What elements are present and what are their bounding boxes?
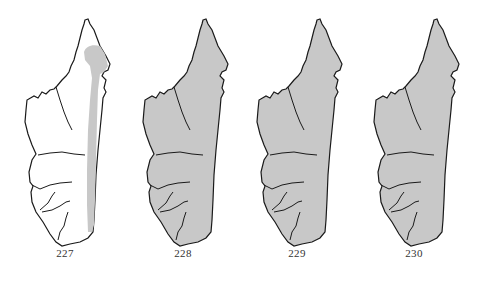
madagascar-map-229: [232, 0, 362, 285]
distribution-map-figure: 227 228 229: [0, 0, 481, 285]
madagascar-map-228: [118, 0, 248, 285]
madagascar-map-230: [349, 0, 479, 285]
map-panel-229: 229: [232, 0, 352, 285]
map-panel-228: 228: [118, 0, 238, 285]
map-panel-230: 230: [349, 0, 469, 285]
map-number-230: 230: [354, 247, 474, 259]
map-panel-227: 227: [0, 0, 120, 285]
map-number-228: 228: [123, 247, 243, 259]
map-number-229: 229: [237, 247, 357, 259]
map-number-227: 227: [5, 247, 125, 259]
madagascar-map-227: [0, 0, 130, 285]
